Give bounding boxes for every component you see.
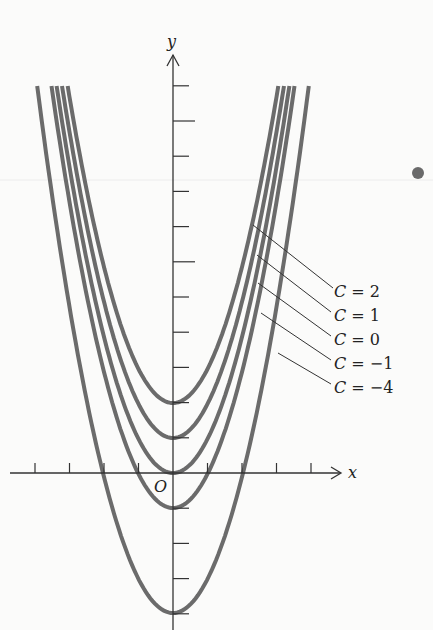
y-ticks [173,86,195,614]
label-cm4: C = −4 [334,378,393,397]
leader-lines [253,225,333,384]
x-axis: x [10,463,357,482]
label-c0: C = 0 [334,330,380,349]
parabola-family-chart: x y O C = 2 C = 1 C = 0 C = −1 C = −4 [0,0,433,630]
label-c2: C = 2 [334,282,380,301]
x-axis-label: x [348,463,357,482]
leader-cm4 [278,353,331,384]
leader-c1 [257,255,331,312]
dot-marker [412,167,424,179]
leader-c0 [258,283,331,336]
y-axis: y [166,32,195,630]
label-cm1: C = −1 [334,354,393,373]
y-axis-label: y [166,32,177,51]
origin-label: O [154,477,167,496]
label-c1: C = 1 [334,306,380,325]
